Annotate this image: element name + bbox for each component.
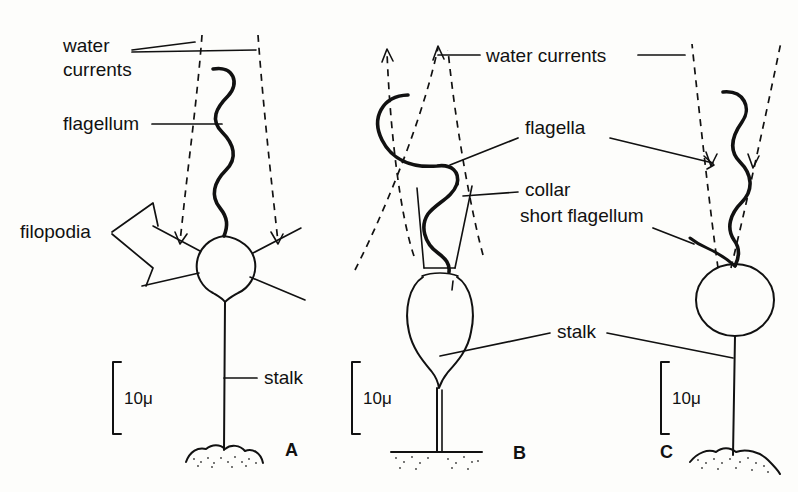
panel-a-substrate	[186, 445, 263, 463]
panel-a-filopodium-lower-right	[250, 277, 305, 300]
panel-c-current-right-arrow	[748, 154, 759, 168]
panel-b-current-right-arrow	[433, 46, 444, 60]
panel-b-scale-bar	[352, 362, 360, 434]
panel-a-filopodia-leader-lower	[112, 234, 153, 286]
panel-a-current-left	[180, 35, 202, 242]
flagella-leader-right	[610, 138, 713, 163]
panel-a-stalk	[224, 302, 225, 450]
panel-c-current-right	[731, 42, 781, 268]
flagella-leader-left	[450, 138, 518, 165]
panel-c-scale-label: 10μ	[672, 389, 701, 408]
panel-a-scale-bar	[113, 362, 121, 434]
panel-c-short-flagellum	[690, 238, 735, 266]
panel-b-flagellum-inner	[424, 184, 457, 272]
panel-a-flagellum	[213, 68, 234, 236]
panel-b-scale-label: 10μ	[363, 389, 392, 408]
panel-a-water-leader-lower	[132, 50, 256, 52]
stalk-leader-to-b	[440, 333, 550, 356]
stalk-leader-to-c	[607, 333, 733, 358]
label-flagella: flagella	[525, 117, 586, 138]
panel-b-collar-neck	[422, 273, 458, 276]
panel-c-cell-body	[696, 264, 774, 336]
label-water-currents-bc: water currents	[485, 45, 606, 66]
panel-c-substrate-stipple	[697, 457, 769, 473]
panel-a-label-water-line2: currents	[63, 59, 132, 80]
panel-a-letter: A	[285, 440, 298, 460]
label-stalk-bc: stalk	[557, 321, 597, 342]
panel-a-substrate-stipple	[193, 456, 257, 468]
panel-a-filopodium-upper-left	[153, 226, 200, 251]
panel-c-substrate	[690, 448, 780, 474]
panel-a-current-right	[258, 35, 278, 242]
choanoflagellate-figure: water currents flagellum filopodia stalk…	[0, 0, 798, 492]
panel-c-flagellum	[723, 92, 750, 266]
panel-a-label-water-line1: water	[62, 35, 110, 56]
panel-a-label-stalk: stalk	[264, 367, 304, 388]
panel-a-scale-label: 10μ	[124, 389, 153, 408]
panel-a-label-flagellum: flagellum	[63, 113, 139, 134]
panel-b-cell-body	[407, 277, 473, 388]
panel-b-collar-right	[455, 186, 472, 268]
short-flagellum-leader	[653, 228, 694, 244]
panel-a-water-leader-upper	[132, 42, 195, 50]
label-short-flagellum: short flagellum	[520, 205, 644, 226]
panel-b-current-outer-right	[448, 50, 483, 255]
panel-c-letter: C	[660, 442, 673, 462]
panel-a-filopodia-leader-upper	[112, 203, 158, 232]
panel-c-scale-bar	[661, 362, 669, 434]
panel-c-stalk	[733, 336, 735, 455]
figure-page: water currents flagellum filopodia stalk…	[0, 0, 798, 492]
panel-b-substrate-stipple	[395, 456, 479, 470]
panel-a-label-filopodia: filopodia	[20, 221, 91, 242]
panel-c: short flagellum stalk 10μ 10μ B C	[352, 42, 781, 474]
panel-b-internal-mark	[452, 281, 453, 290]
panel-a-cell-body	[197, 236, 256, 302]
label-collar: collar	[525, 179, 571, 200]
panel-b-letter: B	[513, 443, 526, 463]
panel-a: water currents flagellum filopodia stalk…	[20, 35, 305, 468]
